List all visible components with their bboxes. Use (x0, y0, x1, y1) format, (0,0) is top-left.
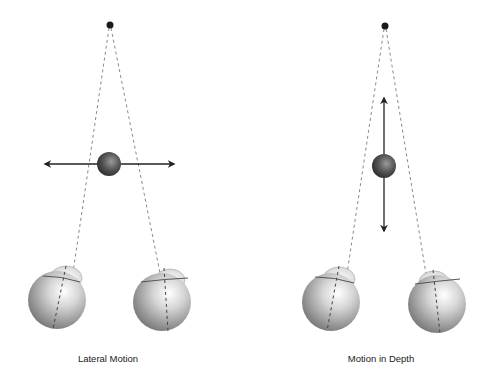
left-eye (302, 266, 360, 331)
moving-object-ball (97, 152, 121, 176)
motion-in-depth-panel (302, 23, 466, 334)
lateral-motion-label: Lateral Motion (78, 353, 138, 364)
moving-object-ball (372, 154, 396, 178)
motion-in-depth-label: Motion in Depth (348, 353, 415, 364)
right-eye (408, 270, 466, 333)
right-eye (133, 268, 191, 331)
fixation-point (382, 23, 389, 30)
fixation-point (107, 22, 114, 29)
lateral-motion-panel (28, 22, 191, 332)
binocular-motion-diagram (0, 0, 478, 376)
left-eye (28, 266, 86, 329)
